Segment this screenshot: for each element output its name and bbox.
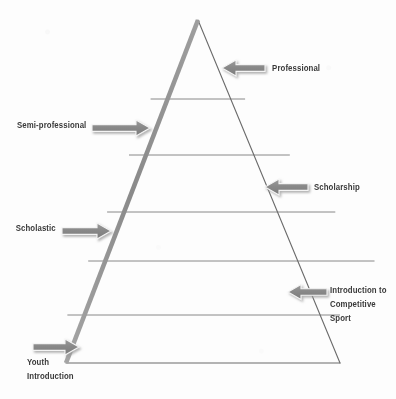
arrow-semi-professional — [92, 120, 150, 136]
pyramid-diagram-canvas: Professional Semi-professional Scholarsh… — [0, 0, 396, 399]
annotation-label-introduction-to-competitive-sport: Introduction to Competitive Sport — [330, 283, 387, 325]
annotation-label-semi-professional-line-1: Semi-professional — [17, 118, 86, 132]
annotation-label-intro-comp-line-3: Sport — [330, 311, 387, 325]
annotation-label-youth-line-2: Introduction — [27, 369, 74, 383]
annotation-label-scholastic: Scholastic — [16, 221, 56, 235]
annotation-label-professional: Professional — [272, 61, 320, 75]
arrow-introduction-to-competitive-sport — [288, 285, 327, 300]
arrow-scholarship — [265, 179, 308, 195]
annotation-label-scholastic-line-1: Scholastic — [16, 221, 56, 235]
annotation-label-scholarship-line-1: Scholarship — [314, 180, 360, 194]
annotation-label-semi-professional: Semi-professional — [17, 118, 86, 132]
annotation-label-youth-line-1: Youth — [27, 355, 74, 369]
pyramid-left-edge — [66, 20, 198, 363]
pyramid-graphic — [0, 0, 396, 399]
annotation-label-intro-comp-line-1: Introduction to — [330, 283, 387, 297]
annotation-label-scholarship: Scholarship — [314, 180, 360, 194]
annotation-label-professional-line-1: Professional — [272, 61, 320, 75]
annotation-label-intro-comp-line-2: Competitive — [330, 297, 387, 311]
annotation-label-youth-introduction: Youth Introduction — [27, 355, 74, 383]
arrow-scholastic — [62, 223, 111, 239]
arrow-professional — [222, 60, 265, 76]
